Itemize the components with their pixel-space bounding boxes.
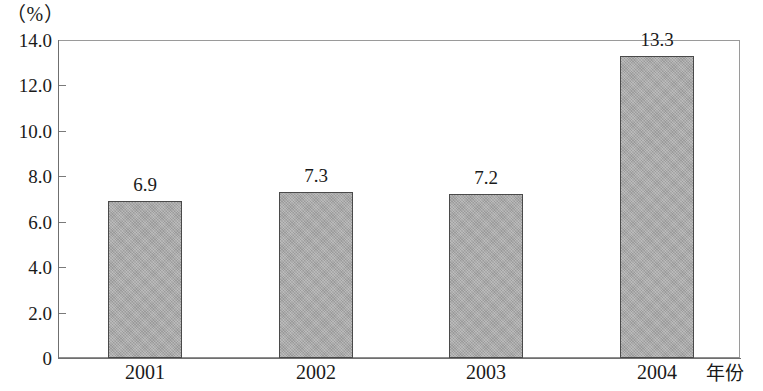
bar-chart-figure: （%） 02.04.06.08.010.012.014.0 6.97.37.21… (0, 0, 763, 391)
y-tick-mark (59, 222, 66, 223)
bar-value-label-2001: 6.9 (85, 175, 205, 194)
x-tick-label-2002: 2002 (246, 362, 386, 382)
bar-2004 (620, 56, 694, 358)
bar-value-label-2004: 13.3 (597, 30, 717, 49)
x-axis-line (58, 358, 741, 359)
bar-2003 (449, 194, 523, 358)
y-tick-mark (59, 85, 66, 86)
bar-value-label-2002: 7.3 (256, 166, 376, 185)
y-tick-label-text: 10.0 (2, 122, 52, 141)
bar-value-label-2003: 7.2 (426, 168, 546, 187)
y-tick-label-text: 14.0 (2, 31, 52, 50)
y-tick-mark (59, 267, 66, 268)
x-tick-label-2003: 2003 (416, 362, 556, 382)
x-axis-title: 年份 (706, 364, 744, 384)
y-tick-label-text: 0 (2, 349, 52, 368)
y-tick-label-text: 4.0 (2, 258, 52, 277)
y-tick-label-text: 2.0 (2, 304, 52, 323)
bar-2001 (108, 201, 182, 358)
y-tick-label-text: 6.0 (2, 213, 52, 232)
y-tick-label-text: 12.0 (2, 76, 52, 95)
y-tick-mark (59, 313, 66, 314)
bar-2002 (279, 192, 353, 358)
y-tick-mark (59, 131, 66, 132)
y-axis-line (58, 40, 59, 359)
y-tick-mark (59, 176, 66, 177)
x-tick-label-2001: 2001 (75, 362, 215, 382)
y-axis-unit-label: （%） (6, 2, 64, 26)
y-tick-label-text: 8.0 (2, 167, 52, 186)
